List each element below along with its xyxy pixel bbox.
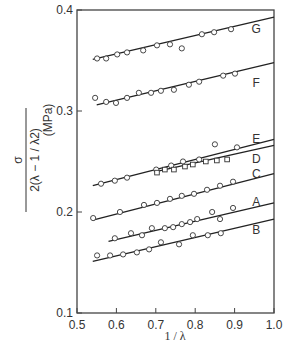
- circle-marker: [120, 252, 125, 257]
- circle-marker: [171, 225, 176, 230]
- circle-marker: [147, 247, 152, 252]
- x-tick-label: 0.6: [108, 318, 125, 332]
- circle-marker: [141, 202, 146, 207]
- circle-marker: [176, 242, 181, 247]
- y-axis-unit-group: (MPa): [41, 104, 55, 137]
- square-marker: [225, 157, 230, 162]
- circle-marker: [221, 73, 226, 78]
- circle-marker: [190, 233, 195, 238]
- circle-marker: [186, 82, 191, 87]
- axis-ticks: [77, 10, 274, 313]
- series-label-a: A: [252, 195, 260, 209]
- y-axis-numerator: σ: [11, 156, 25, 164]
- circle-marker: [179, 193, 184, 198]
- fit-line-f: [97, 63, 274, 105]
- circle-marker: [180, 159, 185, 164]
- circle-marker: [234, 145, 239, 150]
- square-marker: [155, 170, 160, 175]
- circle-marker: [228, 27, 233, 32]
- y-axis-unit-label: (MPa): [41, 104, 55, 137]
- series-label-b: B: [252, 223, 260, 237]
- circle-marker: [162, 226, 167, 231]
- circle-marker: [112, 178, 117, 183]
- circle-marker: [199, 32, 204, 37]
- circle-marker: [210, 209, 215, 214]
- circle-marker: [230, 205, 235, 210]
- circle-marker: [158, 88, 163, 93]
- circle-marker: [115, 52, 120, 57]
- circle-marker: [205, 233, 210, 238]
- circle-marker: [139, 233, 144, 238]
- circle-marker: [124, 95, 129, 100]
- series-label-d: D: [252, 152, 261, 166]
- square-marker: [163, 167, 168, 172]
- circle-marker: [179, 222, 184, 227]
- plot-frame: [77, 10, 274, 313]
- y-tick-label: 0.2: [56, 205, 73, 219]
- square-marker: [172, 167, 177, 172]
- circle-marker: [154, 200, 159, 205]
- circle-marker: [112, 236, 117, 241]
- circle-marker: [179, 46, 184, 51]
- y-tick-label: 0.4: [56, 3, 73, 17]
- circle-marker: [124, 50, 129, 55]
- circle-marker: [204, 187, 209, 192]
- series-label-g: G: [252, 22, 261, 36]
- circle-marker: [148, 90, 153, 95]
- circle-marker: [113, 100, 118, 105]
- series-label-f: F: [253, 76, 260, 90]
- y-axis-label: σ 2(λ − 1 / λ2) (MPa): [11, 108, 42, 212]
- circle-marker: [217, 216, 222, 221]
- y-axis-denominator: 2(λ − 1 / λ2): [28, 128, 42, 192]
- x-tick-label: 0.7: [147, 318, 164, 332]
- series-label-c: C: [252, 167, 261, 181]
- series-labels: GFEDCAB: [252, 22, 261, 237]
- circle-marker: [232, 71, 237, 76]
- y-tick-label: 0.3: [56, 104, 73, 118]
- circle-marker: [154, 43, 159, 48]
- circle-marker: [94, 56, 99, 61]
- circle-marker: [171, 87, 176, 92]
- square-marker: [191, 162, 196, 167]
- circle-marker: [187, 220, 192, 225]
- circle-marker: [93, 95, 98, 100]
- circle-marker: [217, 183, 222, 188]
- circle-marker: [104, 99, 109, 104]
- circle-marker: [212, 142, 217, 147]
- circle-marker: [158, 240, 163, 245]
- circle-marker: [124, 175, 129, 180]
- y-tick-labels: 0.10.20.30.4: [56, 3, 73, 320]
- circle-marker: [212, 30, 217, 35]
- square-marker: [204, 159, 209, 164]
- circle-marker: [104, 56, 109, 61]
- circle-marker: [167, 42, 172, 47]
- fit-line-g: [93, 17, 274, 59]
- circle-marker: [98, 181, 103, 186]
- square-marker: [183, 164, 188, 169]
- circle-marker: [191, 191, 196, 196]
- circle-marker: [141, 48, 146, 53]
- circle-marker: [167, 196, 172, 201]
- x-tick-label: 0.9: [226, 318, 243, 332]
- data-points: [91, 27, 240, 258]
- x-axis-label: 1 / λ: [164, 329, 185, 343]
- x-tick-label: 0.5: [69, 318, 86, 332]
- x-tick-label: 1.0: [266, 318, 283, 332]
- circle-marker: [230, 179, 235, 184]
- y-tick-label: 0.1: [56, 306, 73, 320]
- circle-marker: [94, 253, 99, 258]
- circle-marker: [134, 250, 139, 255]
- circle-marker: [136, 90, 141, 95]
- scatter-chart: 0.50.60.70.80.91.0 0.10.20.30.4 GFEDCAB …: [0, 0, 287, 353]
- circle-marker: [91, 215, 96, 220]
- series-label-e: E: [252, 132, 260, 146]
- x-tick-label: 0.8: [187, 318, 204, 332]
- circle-marker: [149, 226, 154, 231]
- circle-marker: [107, 253, 112, 258]
- circle-marker: [117, 209, 122, 214]
- circle-marker: [197, 79, 202, 84]
- circle-marker: [218, 231, 223, 236]
- circle-marker: [195, 216, 200, 221]
- circle-marker: [128, 231, 133, 236]
- circle-marker: [197, 157, 202, 162]
